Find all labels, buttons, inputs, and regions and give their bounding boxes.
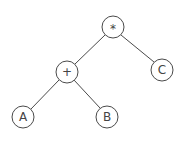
node-a: A bbox=[12, 106, 34, 128]
node-label-mul: * bbox=[110, 22, 116, 36]
expression-tree-diagram: * + C A B bbox=[0, 0, 186, 142]
node-c: C bbox=[151, 59, 173, 81]
node-label-b: B bbox=[103, 110, 111, 124]
node-label-c: C bbox=[158, 63, 166, 77]
edge-plus-b bbox=[74, 80, 100, 108]
node-plus: + bbox=[56, 61, 78, 83]
node-label-a: A bbox=[19, 110, 28, 124]
edge-plus-a bbox=[31, 80, 59, 109]
node-b: B bbox=[96, 106, 118, 128]
edge-mul-c bbox=[121, 35, 154, 62]
node-mul: * bbox=[102, 16, 124, 38]
edge-mul-plus bbox=[75, 35, 105, 64]
node-label-plus: + bbox=[62, 65, 72, 79]
edges bbox=[31, 35, 154, 109]
